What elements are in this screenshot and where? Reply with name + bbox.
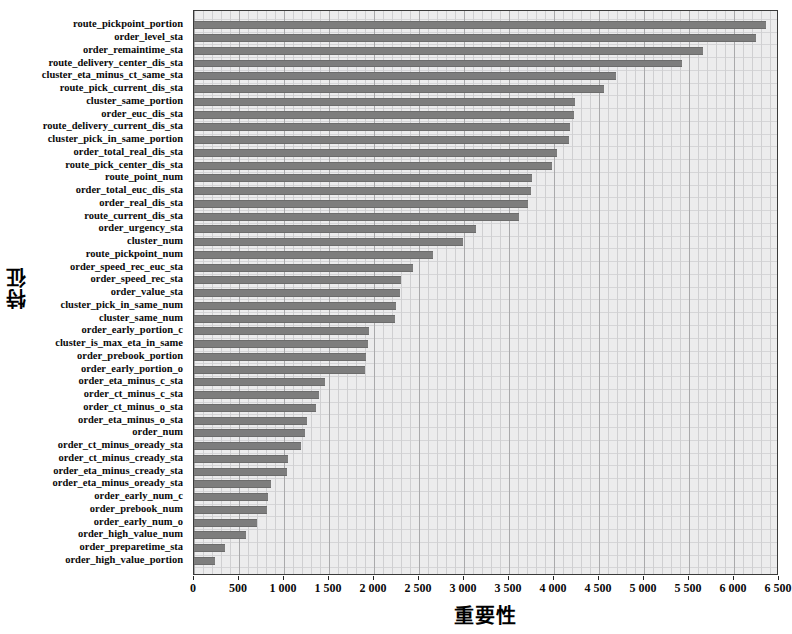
vertical-gridline-minor bbox=[437, 11, 438, 574]
vertical-gridline-minor bbox=[752, 11, 753, 574]
x-axis-tick-label: 5 500 bbox=[675, 581, 702, 596]
vertical-gridline-minor bbox=[563, 11, 564, 574]
vertical-gridline-minor bbox=[716, 11, 717, 574]
vertical-gridline-minor bbox=[635, 11, 636, 574]
x-axis-tick-mark bbox=[418, 576, 419, 580]
bar bbox=[194, 468, 287, 476]
y-axis-tick-label: order_high_value_num bbox=[78, 528, 183, 540]
bar bbox=[194, 327, 369, 335]
x-axis-tick-label: 1 000 bbox=[270, 581, 297, 596]
vertical-gridline-minor bbox=[428, 11, 429, 574]
bar bbox=[194, 34, 756, 42]
y-axis-tick-label: route_delivery_center_dis_sta bbox=[48, 57, 183, 69]
vertical-gridline-minor bbox=[662, 11, 663, 574]
x-axis-tick-label: 2 500 bbox=[405, 581, 432, 596]
x-axis-tick-mark bbox=[193, 576, 194, 580]
bar bbox=[194, 480, 271, 488]
bar bbox=[194, 442, 301, 450]
bar bbox=[194, 200, 528, 208]
vertical-gridline-minor bbox=[401, 11, 402, 574]
bar bbox=[194, 404, 316, 412]
vertical-gridline-major bbox=[419, 11, 420, 574]
vertical-gridline-minor bbox=[500, 11, 501, 574]
bar bbox=[194, 544, 225, 552]
y-axis-tick-label: route_point_num bbox=[105, 171, 183, 183]
bar bbox=[194, 98, 575, 106]
vertical-gridline-minor bbox=[707, 11, 708, 574]
bar bbox=[194, 238, 463, 246]
y-axis-tick-label: order_eta_minus_c_sta bbox=[79, 375, 183, 387]
x-axis-tick-mark bbox=[328, 576, 329, 580]
y-axis-tick-label: order_urgency_sta bbox=[98, 222, 183, 234]
bar bbox=[194, 213, 519, 221]
vertical-gridline-minor bbox=[545, 11, 546, 574]
bar bbox=[194, 47, 703, 55]
vertical-gridline-minor bbox=[446, 11, 447, 574]
bar bbox=[194, 315, 395, 323]
y-axis-tick-label: order_ct_minus_c_sta bbox=[84, 388, 183, 400]
y-axis-tick-label: route_pick_current_dis_sta bbox=[60, 82, 183, 94]
bar bbox=[194, 302, 396, 310]
y-axis-tick-label: order_early_num_o bbox=[94, 516, 183, 528]
bar bbox=[194, 378, 325, 386]
x-axis-tick-label: 500 bbox=[229, 581, 247, 596]
vertical-gridline-minor bbox=[680, 11, 681, 574]
x-axis-tick-mark bbox=[283, 576, 284, 580]
y-axis-tick-label: route_pickpoint_portion bbox=[73, 18, 183, 30]
x-axis-tick-labels: 05001 0001 5002 0002 5003 0003 5004 0004… bbox=[193, 576, 778, 596]
y-axis-tick-label: order_preparetime_sta bbox=[80, 541, 183, 553]
y-axis-tick-label: order_eta_minus_o_sta bbox=[78, 414, 183, 426]
y-axis-tick-label: order_high_value_portion bbox=[65, 554, 183, 566]
vertical-gridline-major bbox=[464, 11, 465, 574]
y-axis-tick-label: cluster_same_portion bbox=[86, 95, 183, 107]
x-axis-tick-label: 4 000 bbox=[540, 581, 567, 596]
bar bbox=[194, 123, 570, 131]
y-axis-tick-label: order_value_sta bbox=[111, 286, 183, 298]
bar bbox=[194, 340, 368, 348]
x-axis-tick-label: 1 500 bbox=[315, 581, 342, 596]
bar bbox=[194, 531, 246, 539]
y-axis-tick-label: order_eta_minus_cready_sta bbox=[53, 465, 183, 477]
bar bbox=[194, 519, 257, 527]
vertical-gridline-minor bbox=[653, 11, 654, 574]
bar bbox=[194, 353, 366, 361]
y-axis-tick-label: cluster_is_max_eta_in_same bbox=[55, 337, 183, 349]
y-axis-tick-label: order_ct_minus_cready_sta bbox=[58, 452, 183, 464]
y-axis-tick-label: order_prebook_num bbox=[90, 503, 183, 515]
bar bbox=[194, 187, 531, 195]
x-axis-tick-label: 0 bbox=[190, 581, 196, 596]
bar bbox=[194, 162, 552, 170]
x-axis-tick-label: 5 000 bbox=[630, 581, 657, 596]
bar bbox=[194, 60, 682, 68]
x-axis-tick-label: 6 500 bbox=[765, 581, 792, 596]
y-axis-tick-label: order_prebook_portion bbox=[77, 350, 183, 362]
vertical-gridline-minor bbox=[590, 11, 591, 574]
bar bbox=[194, 225, 476, 233]
vertical-gridline-minor bbox=[473, 11, 474, 574]
x-axis-tick-label: 4 500 bbox=[585, 581, 612, 596]
bar bbox=[194, 21, 766, 29]
y-axis-tick-label: cluster_pick_in_same_portion bbox=[48, 133, 183, 145]
vertical-gridline-major bbox=[689, 11, 690, 574]
vertical-gridline-minor bbox=[410, 11, 411, 574]
x-axis-tick-mark bbox=[373, 576, 374, 580]
x-axis-tick-label: 2 000 bbox=[360, 581, 387, 596]
vertical-gridline-minor bbox=[761, 11, 762, 574]
y-axis-tick-label: route_pick_center_dis_sta bbox=[65, 159, 183, 171]
y-axis-tick-label: cluster_same_num bbox=[99, 312, 183, 324]
y-axis-tick-label: order_euc_dis_sta bbox=[101, 108, 183, 120]
bar bbox=[194, 111, 574, 119]
x-axis-title: 重要性 bbox=[193, 600, 778, 629]
y-axis-tick-label: order_early_num_c bbox=[94, 490, 183, 502]
y-axis-tick-label: order_total_real_dis_sta bbox=[74, 146, 183, 158]
y-axis-tick-label: route_pickpoint_num bbox=[86, 248, 183, 260]
x-axis-tick-mark bbox=[238, 576, 239, 580]
x-axis-tick-mark bbox=[688, 576, 689, 580]
y-axis-tick-label: order_speed_rec_sta bbox=[90, 273, 183, 285]
vertical-gridline-major bbox=[509, 11, 510, 574]
vertical-gridline-major bbox=[554, 11, 555, 574]
vertical-gridline-major bbox=[599, 11, 600, 574]
x-axis-tick-mark bbox=[463, 576, 464, 580]
bar bbox=[194, 72, 616, 80]
vertical-gridline-minor bbox=[617, 11, 618, 574]
